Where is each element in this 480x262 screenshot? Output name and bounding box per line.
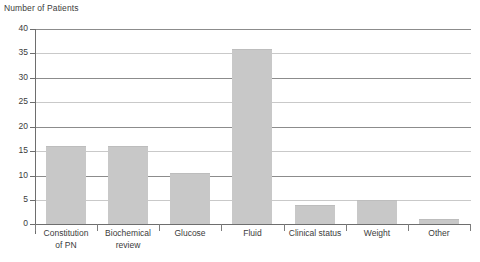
y-tick-mark-20 [30,127,35,128]
y-tick-label-35: 35 [4,48,28,57]
y-tick-label-40: 40 [4,24,28,33]
bar-constitution-of-pn [46,146,86,224]
y-tick-mark-5 [30,200,35,201]
x-label-line: Weight [346,228,408,240]
bar-glucose [170,173,210,224]
x-label-line: Biochemical [97,228,159,240]
bar-clinical-status [295,205,335,225]
x-label-line: Fluid [221,228,284,240]
plot-area: 40 35 30 25 20 15 10 5 0 [0,0,480,262]
y-tick-mark-30 [30,78,35,79]
x-label-other: Other [408,228,470,240]
x-label-weight: Weight [346,228,408,240]
x-axis-line [35,224,471,225]
x-label-biochemical-review: Biochemical review [97,228,159,251]
y-tick-label-20: 20 [4,122,28,131]
x-label-line: Clinical status [284,228,346,240]
y-tick-label-15: 15 [4,146,28,155]
x-label-glucose: Glucose [159,228,221,240]
y-tick-mark-25 [30,102,35,103]
x-label-line: of PN [35,240,97,252]
x-label-line: Constitution [35,228,97,240]
x-label-line: review [97,240,159,252]
y-tick-mark-35 [30,53,35,54]
x-label-clinical-status: Clinical status [284,228,346,240]
bar-chart: Number of Patients 40 35 30 [0,0,480,262]
x-label-line: Other [408,228,470,240]
bar-weight [357,200,397,224]
x-label-fluid: Fluid [221,228,284,240]
y-axis-line [35,29,36,234]
x-label-constitution-of-pn: Constitution of PN [35,228,97,251]
y-tick-label-0: 0 [4,219,28,228]
gridline-40 [35,29,471,30]
bar-fluid [232,49,272,225]
y-tick-label-25: 25 [4,97,28,106]
y-tick-label-10: 10 [4,171,28,180]
x-axis-separator [470,224,471,231]
bar-biochemical-review [108,146,148,224]
y-tick-mark-15 [30,151,35,152]
y-tick-mark-10 [30,176,35,177]
y-tick-label-5: 5 [4,195,28,204]
y-tick-mark-40 [30,29,35,30]
y-tick-label-30: 30 [4,73,28,82]
x-label-line: Glucose [159,228,221,240]
